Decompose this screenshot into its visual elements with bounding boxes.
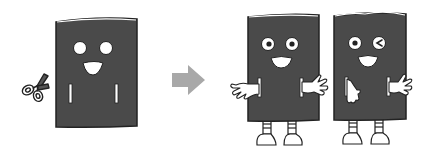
right-eye xyxy=(100,42,113,55)
mascot-winking xyxy=(334,12,412,144)
left-slit xyxy=(69,84,72,103)
legs xyxy=(257,118,302,145)
legs xyxy=(343,117,389,144)
scissors-icon xyxy=(21,74,49,103)
arrow-right-icon xyxy=(172,65,205,95)
mascot-arms-out xyxy=(231,14,328,145)
left-eye xyxy=(74,42,87,55)
right-slit xyxy=(115,84,118,103)
illustration-scene: Rectangular mascot with cut slits become… xyxy=(0,0,430,156)
mascot-before xyxy=(56,18,137,127)
winking-eye xyxy=(373,37,386,50)
